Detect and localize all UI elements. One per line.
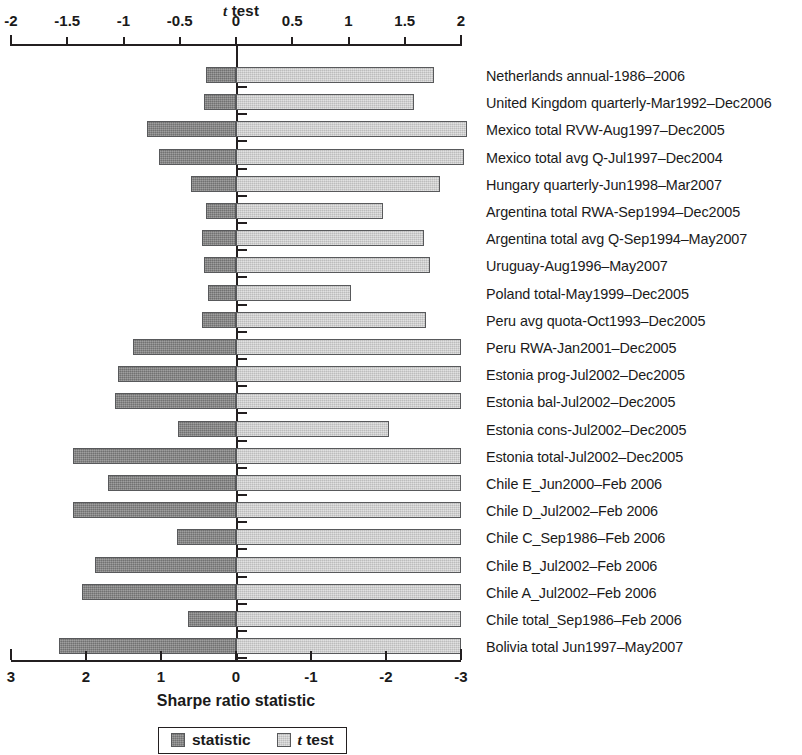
bar-ttest bbox=[236, 312, 426, 328]
bar-statistic bbox=[206, 67, 236, 83]
row-label: United Kingdom quarterly-Mar1992–Dec2006 bbox=[486, 95, 772, 111]
chart-row: Argentina total avg Q-Sep1994–May2007 bbox=[0, 225, 802, 252]
bar-statistic bbox=[178, 421, 236, 437]
chart-row: Chile E_Jun2000–Feb 2006 bbox=[0, 470, 802, 497]
bar-ttest bbox=[236, 94, 414, 110]
row-label: Chile E_Jun2000–Feb 2006 bbox=[486, 476, 662, 492]
chart-row: Hungary quarterly-Jun1998–Mar2007 bbox=[0, 171, 802, 198]
legend-swatch-statistic-icon bbox=[171, 733, 185, 747]
bar-ttest bbox=[236, 339, 461, 355]
bar-statistic bbox=[202, 230, 236, 246]
top-axis-tick bbox=[66, 37, 68, 46]
chart-row: Bolivia total Jun1997–May2007 bbox=[0, 633, 802, 660]
bar-ttest bbox=[236, 611, 461, 627]
top-axis-tick bbox=[179, 37, 181, 46]
chart-row: Mexico total RVW-Aug1997–Dec2005 bbox=[0, 116, 802, 143]
chart-row: Estonia cons-Jul2002–Dec2005 bbox=[0, 416, 802, 443]
top-axis-tick bbox=[123, 37, 125, 46]
bottom-axis-tick-label: -3 bbox=[438, 668, 484, 685]
legend-item-statistic[interactable]: statistic bbox=[171, 731, 251, 749]
chart-row: Estonia prog-Jul2002–Dec2005 bbox=[0, 361, 802, 388]
chart-row: Peru avg quota-Oct1993–Dec2005 bbox=[0, 307, 802, 334]
row-label: Peru avg quota-Oct1993–Dec2005 bbox=[486, 313, 705, 329]
bar-ttest bbox=[236, 475, 461, 491]
bar-ttest bbox=[236, 121, 467, 137]
chart-row: Estonia bal-Jul2002–Dec2005 bbox=[0, 388, 802, 415]
chart-row: Poland total-May1999–Dec2005 bbox=[0, 280, 802, 307]
bar-statistic bbox=[204, 94, 236, 110]
bottom-axis-tick bbox=[235, 651, 237, 660]
top-axis-tick-label: -2 bbox=[0, 12, 34, 29]
bar-statistic bbox=[73, 448, 236, 464]
chart-row: Mexico total avg Q-Jul1997–Dec2004 bbox=[0, 144, 802, 171]
bottom-axis-tick bbox=[10, 649, 12, 660]
top-axis-tick-label: 0.5 bbox=[269, 12, 315, 29]
chart-row: Netherlands annual-1986–2006 bbox=[0, 62, 802, 89]
top-axis-tick-label: -0.5 bbox=[157, 12, 203, 29]
bottom-axis-tick-label: -1 bbox=[288, 668, 334, 685]
row-label: Chile A_Jul2002–Feb 2006 bbox=[486, 585, 656, 601]
bar-ttest bbox=[236, 448, 461, 464]
bar-ttest bbox=[236, 230, 424, 246]
bar-statistic bbox=[159, 149, 236, 165]
bar-statistic bbox=[188, 611, 236, 627]
legend-label-ttest-rest: test bbox=[302, 731, 334, 748]
bottom-axis-tick bbox=[85, 651, 87, 660]
legend: statistic t test bbox=[158, 727, 347, 754]
top-axis-tick-label: -1.5 bbox=[44, 12, 90, 29]
bar-statistic bbox=[73, 502, 236, 518]
legend-label-statistic: statistic bbox=[192, 731, 251, 749]
bar-ttest bbox=[236, 67, 434, 83]
bottom-axis-tick-label: 0 bbox=[213, 668, 259, 685]
bottom-axis-tick bbox=[460, 649, 462, 660]
bar-ttest bbox=[236, 393, 461, 409]
bar-statistic bbox=[133, 339, 236, 355]
bar-statistic bbox=[206, 203, 236, 219]
bar-ttest bbox=[236, 638, 461, 654]
bar-ttest bbox=[236, 529, 461, 545]
bottom-axis-tick bbox=[160, 651, 162, 660]
bottom-axis-tick bbox=[310, 651, 312, 660]
bar-ttest bbox=[236, 176, 440, 192]
bar-ttest bbox=[236, 149, 464, 165]
bar-ttest bbox=[236, 257, 430, 273]
bottom-axis-tick bbox=[385, 651, 387, 660]
chart-row: Peru RWA-Jan2001–Dec2005 bbox=[0, 334, 802, 361]
chart-row: Chile total_Sep1986–Feb 2006 bbox=[0, 606, 802, 633]
bottom-axis-title: Sharpe ratio statistic bbox=[96, 692, 376, 710]
top-axis-tick bbox=[460, 35, 462, 46]
bar-statistic bbox=[147, 121, 236, 137]
bar-statistic bbox=[82, 584, 236, 600]
top-axis-tick bbox=[348, 37, 350, 46]
bar-statistic bbox=[177, 529, 236, 545]
row-label: Netherlands annual-1986–2006 bbox=[486, 68, 685, 84]
top-axis-tick bbox=[291, 37, 293, 46]
bar-ttest bbox=[236, 285, 351, 301]
top-axis-tick-label: 1.5 bbox=[382, 12, 428, 29]
top-axis-tick bbox=[10, 35, 12, 46]
bar-statistic bbox=[202, 312, 236, 328]
bar-statistic bbox=[108, 475, 236, 491]
bar-statistic bbox=[208, 285, 236, 301]
top-axis-tick-label: -1 bbox=[101, 12, 147, 29]
bottom-axis-line bbox=[11, 660, 461, 662]
bottom-axis-tick-label: 2 bbox=[63, 668, 109, 685]
row-label: Estonia prog-Jul2002–Dec2005 bbox=[486, 367, 685, 383]
row-label: Argentina total RWA-Sep1994–Dec2005 bbox=[486, 204, 740, 220]
legend-item-ttest[interactable]: t test bbox=[277, 731, 334, 749]
sharpe-ratio-chart: t test -2-1.5-1-0.500.511.52 Netherlands… bbox=[0, 0, 802, 755]
chart-row: Chile A_Jul2002–Feb 2006 bbox=[0, 579, 802, 606]
bottom-axis-tick-label: 3 bbox=[0, 668, 34, 685]
row-label: Mexico total avg Q-Jul1997–Dec2004 bbox=[486, 150, 723, 166]
row-label: Chile total_Sep1986–Feb 2006 bbox=[486, 612, 682, 628]
chart-row: Chile D_Jul2002–Feb 2006 bbox=[0, 497, 802, 524]
chart-row: Uruguay-Aug1996–May2007 bbox=[0, 252, 802, 279]
top-axis-tick-label: 1 bbox=[326, 12, 372, 29]
top-axis-tick-label: 2 bbox=[438, 12, 484, 29]
row-label: Uruguay-Aug1996–May2007 bbox=[486, 258, 668, 274]
bar-statistic bbox=[191, 176, 236, 192]
chart-row: Chile C_Sep1986–Feb 2006 bbox=[0, 524, 802, 551]
row-label: Chile B_Jul2002–Feb 2006 bbox=[486, 558, 657, 574]
bottom-axis-tick-label: 1 bbox=[138, 668, 184, 685]
row-label: Chile C_Sep1986–Feb 2006 bbox=[486, 530, 665, 546]
